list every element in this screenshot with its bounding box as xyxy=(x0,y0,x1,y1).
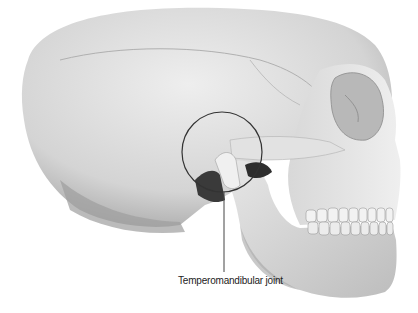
tmj-label: Temperomandibular joint xyxy=(178,275,283,286)
joint-shadow xyxy=(245,162,272,178)
skull-illustration xyxy=(0,0,418,313)
upper-teeth xyxy=(306,208,393,222)
